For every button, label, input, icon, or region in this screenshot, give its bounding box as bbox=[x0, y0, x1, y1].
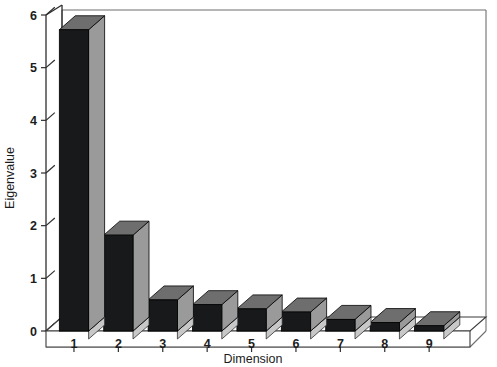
y-tick-group: 0123456 bbox=[30, 7, 55, 338]
x-tick: 9 bbox=[426, 337, 433, 352]
y-tick-depth-mark bbox=[46, 7, 55, 15]
bar bbox=[59, 16, 104, 339]
bar-front-face bbox=[415, 326, 444, 331]
x-tick-label: 9 bbox=[426, 337, 433, 351]
x-tick: 2 bbox=[115, 337, 122, 352]
y-tick-depth-mark bbox=[46, 113, 55, 121]
x-axis-title: Dimension bbox=[223, 352, 282, 366]
y-tick-depth-mark bbox=[46, 60, 55, 68]
x-tick: 7 bbox=[337, 337, 344, 352]
bar-group bbox=[59, 16, 459, 339]
bar-front-face bbox=[59, 30, 88, 331]
y-tick-label: 4 bbox=[30, 114, 37, 128]
y-tick-label: 0 bbox=[30, 325, 37, 339]
x-tick-label: 4 bbox=[204, 337, 211, 351]
bar-front-face bbox=[237, 309, 266, 331]
y-tick: 6 bbox=[30, 7, 55, 22]
y-tick-label: 3 bbox=[30, 167, 37, 181]
bar bbox=[104, 221, 149, 339]
bar-front-face bbox=[104, 235, 133, 331]
x-tick-label: 8 bbox=[381, 337, 388, 351]
y-tick: 4 bbox=[30, 113, 55, 128]
x-tick: 6 bbox=[292, 337, 299, 352]
x-tick: 1 bbox=[70, 337, 77, 352]
y-tick: 5 bbox=[30, 60, 55, 75]
y-tick: 2 bbox=[30, 218, 55, 233]
frame-depth-diagonal bbox=[470, 331, 486, 347]
x-tick: 4 bbox=[204, 337, 211, 352]
bar-side-face bbox=[89, 16, 105, 331]
y-tick-depth-mark bbox=[46, 218, 55, 226]
y-axis-title: Eigenvalue bbox=[3, 147, 17, 209]
y-tick-label: 5 bbox=[30, 61, 37, 75]
x-tick-label: 3 bbox=[159, 337, 166, 351]
x-tick: 5 bbox=[248, 337, 255, 352]
x-tick-label: 6 bbox=[292, 337, 299, 351]
bar-front-face bbox=[370, 323, 399, 331]
x-tick: 3 bbox=[159, 337, 166, 352]
chart-canvas: 0123456 Eigenvalue 123456789 Dimension bbox=[0, 0, 497, 367]
y-tick: 1 bbox=[30, 271, 55, 286]
y-tick-depth-mark bbox=[46, 271, 55, 279]
x-tick-label: 2 bbox=[115, 337, 122, 351]
bar bbox=[148, 286, 193, 339]
y-tick-label: 2 bbox=[30, 219, 37, 233]
y-tick-label: 6 bbox=[30, 9, 37, 23]
y-tick-label: 1 bbox=[30, 272, 37, 286]
x-tick-label: 1 bbox=[70, 337, 77, 351]
y-tick-depth-mark bbox=[46, 165, 55, 173]
bar-front-face bbox=[281, 312, 310, 331]
bar-front-face bbox=[326, 319, 355, 331]
bar-front-face bbox=[148, 300, 177, 331]
x-tick-label: 7 bbox=[337, 337, 344, 351]
y-tick: 3 bbox=[30, 165, 55, 180]
bar-front-face bbox=[193, 305, 222, 331]
x-tick-label: 5 bbox=[248, 337, 255, 351]
bar-side-face bbox=[133, 221, 149, 331]
scree-plot-chart: 0123456 Eigenvalue 123456789 Dimension bbox=[0, 0, 497, 367]
x-tick: 8 bbox=[381, 337, 388, 352]
